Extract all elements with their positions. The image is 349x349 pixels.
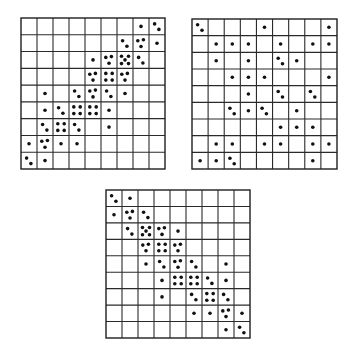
data-point-dot — [276, 56, 280, 60]
data-point-dot — [190, 260, 194, 264]
data-point-dot — [110, 78, 114, 82]
data-point-dot — [160, 279, 164, 283]
data-point-dot — [208, 312, 212, 316]
data-point-dot — [313, 95, 317, 99]
data-point-dot — [27, 142, 31, 146]
panel-top-right-uncorrelated — [192, 19, 337, 169]
data-point-dot — [206, 276, 210, 280]
data-point-dot — [163, 243, 167, 247]
data-point-dot — [153, 22, 157, 26]
data-point-dot — [75, 142, 79, 146]
data-point-dot — [242, 331, 246, 335]
data-point-dot — [211, 292, 215, 296]
data-point-dot — [263, 26, 267, 30]
data-point-dot — [279, 126, 283, 130]
data-point-dot — [227, 308, 231, 312]
data-point-dot — [112, 213, 116, 217]
data-point-dot — [222, 293, 226, 297]
data-point-dot — [142, 38, 146, 42]
data-point-dot — [62, 122, 66, 126]
data-point-dot — [309, 90, 313, 94]
data-point-dot — [104, 78, 108, 82]
data-point-dot — [125, 44, 129, 48]
data-point-dot — [147, 243, 151, 247]
data-point-dot — [263, 76, 267, 80]
data-point-dot — [139, 25, 143, 29]
data-point-dot — [123, 92, 127, 96]
panel-top-left-positive-diagonal — [21, 18, 165, 169]
data-point-dot — [144, 249, 148, 253]
data-point-dot — [142, 210, 146, 214]
data-point-dot — [224, 315, 228, 319]
data-point-dot — [224, 279, 228, 283]
data-point-dot — [144, 262, 148, 266]
data-point-dot — [62, 129, 66, 133]
data-point-dot — [224, 262, 228, 266]
data-point-dot — [110, 194, 114, 198]
data-point-dot — [228, 156, 232, 160]
data-point-dot — [110, 72, 114, 76]
data-point-dot — [94, 105, 98, 109]
data-point-dot — [94, 88, 98, 92]
data-point-dot — [327, 42, 331, 46]
data-point-dot — [163, 226, 167, 230]
data-point-dot — [73, 89, 77, 93]
data-point-dot — [327, 26, 331, 30]
data-point-dot — [141, 233, 145, 237]
data-point-dot — [224, 328, 228, 332]
data-point-dot — [94, 112, 98, 116]
data-point-dot — [41, 123, 45, 127]
data-point-dot — [276, 90, 280, 94]
data-point-dot — [228, 106, 232, 110]
data-point-dot — [155, 41, 159, 45]
data-point-dot — [281, 62, 285, 66]
data-point-dot — [173, 275, 177, 279]
data-point-dot — [88, 105, 92, 109]
data-point-dot — [146, 216, 150, 220]
data-point-dot — [260, 106, 264, 110]
data-point-dot — [210, 282, 214, 286]
data-point-dot — [160, 295, 164, 299]
data-point-dot — [194, 298, 198, 302]
data-point-dot — [247, 92, 251, 96]
data-point-dot — [295, 126, 299, 130]
data-point-dot — [231, 142, 235, 146]
data-point-dot — [120, 55, 124, 59]
data-point-dot — [77, 95, 81, 99]
data-point-dot — [120, 62, 124, 66]
data-point-dot — [104, 72, 108, 76]
data-point-dot — [94, 72, 98, 76]
data-point-dot — [78, 112, 82, 116]
data-point-dot — [43, 159, 47, 163]
data-point-dot — [163, 249, 167, 253]
data-point-dot — [179, 243, 183, 247]
data-point-dot — [263, 142, 267, 146]
data-point-dot — [128, 216, 132, 220]
data-point-dot — [130, 232, 134, 236]
data-point-dot — [123, 78, 127, 82]
data-point-dot — [137, 56, 141, 60]
data-point-dot — [247, 59, 251, 63]
grid-scatter-figure — [0, 0, 349, 349]
data-point-dot — [127, 62, 131, 66]
data-point-dot — [214, 159, 218, 163]
data-point-dot — [40, 140, 44, 144]
data-point-dot — [295, 109, 299, 113]
data-point-dot — [104, 56, 108, 60]
data-point-dot — [173, 282, 177, 286]
data-point-dot — [176, 249, 180, 253]
data-point-dot — [211, 298, 215, 302]
data-point-dot — [311, 126, 315, 130]
data-point-dot — [295, 59, 299, 63]
data-point-dot — [88, 72, 92, 76]
data-point-dot — [311, 42, 315, 46]
data-point-dot — [123, 58, 127, 62]
data-point-dot — [139, 45, 143, 49]
data-point-dot — [61, 112, 65, 116]
data-point-dot — [192, 312, 196, 316]
data-point-dot — [56, 129, 60, 133]
data-point-dot — [196, 23, 200, 27]
data-point-dot — [231, 42, 235, 46]
data-point-dot — [107, 109, 111, 113]
data-point-dot — [232, 162, 236, 166]
